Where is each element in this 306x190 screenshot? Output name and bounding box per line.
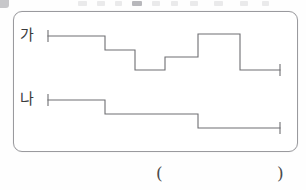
scan-text-fragment <box>190 1 198 6</box>
scan-text-fragment <box>115 1 122 6</box>
scan-text-fragment <box>240 1 248 6</box>
page-root: 가 나 ( ) <box>0 0 306 190</box>
scan-edge-artifact <box>0 0 306 9</box>
scan-text-fragment <box>171 1 178 6</box>
row-label-na: 나 <box>20 92 34 107</box>
open-paren: ( <box>156 163 163 183</box>
scan-text-fragment <box>97 1 105 6</box>
row-label-ga: 가 <box>20 28 34 43</box>
close-paren: ) <box>277 163 284 183</box>
scan-text-fragment <box>132 1 142 6</box>
step-graph-panel <box>13 11 298 152</box>
scan-text-fragment <box>78 1 87 6</box>
scan-text-fragment <box>214 1 223 6</box>
scan-text-fragment <box>262 1 269 6</box>
answer-blank[interactable]: ( ) <box>150 163 290 187</box>
scan-corner-mark <box>0 0 9 8</box>
scan-text-fragment <box>152 1 160 6</box>
